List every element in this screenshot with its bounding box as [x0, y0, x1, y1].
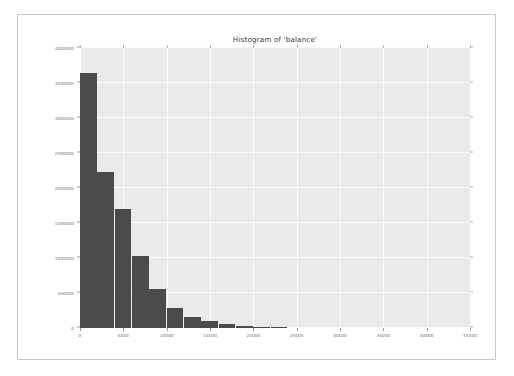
histogram-bar-1 [97, 172, 114, 328]
x-tick-mark-top-1 [123, 45, 124, 48]
y-tick-label-3: 1500000 [55, 221, 74, 226]
x-tick-label-0: 0 [79, 333, 82, 338]
y-tick-label-5: 2500000 [55, 151, 74, 156]
x-tick-label-6: 30000 [333, 333, 347, 338]
histogram-bars [80, 48, 470, 328]
x-tick-mark-3 [210, 328, 211, 331]
x-tick-label-4: 20000 [246, 333, 260, 338]
figure-frame: Histogram of 'balance' 05000001000000150… [17, 14, 496, 360]
x-tick-label-9: 45000 [463, 333, 477, 338]
y-tick-mark-right-2 [470, 257, 473, 258]
histogram-bar-2 [115, 209, 132, 328]
chart-title: Histogram of 'balance' [80, 35, 470, 44]
x-tick-mark-top-2 [167, 45, 168, 48]
x-tick-mark-top-9 [470, 45, 471, 48]
x-tick-mark-4 [253, 328, 254, 331]
x-tick-mark-top-8 [427, 45, 428, 48]
y-tick-label-7: 3500000 [55, 81, 74, 86]
y-tick-mark-right-4 [470, 187, 473, 188]
y-tick-label-8: 4000000 [55, 46, 74, 51]
x-tick-label-7: 35000 [376, 333, 390, 338]
y-tick-mark-right-3 [470, 222, 473, 223]
y-tick-label-0: 0 [71, 326, 74, 331]
x-tick-mark-7 [383, 328, 384, 331]
y-tick-label-1: 500000 [57, 291, 74, 296]
histogram-bar-5 [167, 308, 184, 328]
chart-axes-area: Histogram of 'balance' 05000001000000150… [80, 48, 470, 328]
histogram-bar-8 [219, 324, 236, 328]
x-tick-mark-top-4 [253, 45, 254, 48]
x-tick-mark-0 [80, 328, 81, 331]
x-tick-mark-9 [470, 328, 471, 331]
histogram-bar-3 [132, 256, 149, 328]
x-tick-mark-top-3 [210, 45, 211, 48]
y-tick-label-6: 3000000 [55, 116, 74, 121]
screenshot-root: Histogram of 'balance' 05000001000000150… [0, 0, 514, 376]
x-tick-mark-top-6 [340, 45, 341, 48]
x-tick-label-3: 15000 [203, 333, 217, 338]
x-tick-mark-top-5 [297, 45, 298, 48]
x-tick-label-2: 10000 [160, 333, 174, 338]
y-tick-mark-right-1 [470, 292, 473, 293]
histogram-bar-11 [271, 327, 288, 328]
gridline-vertical-9 [470, 48, 471, 328]
y-tick-label-4: 2000000 [55, 186, 74, 191]
histogram-bar-0 [80, 73, 97, 328]
y-tick-mark-right-6 [470, 117, 473, 118]
histogram-bar-6 [184, 317, 201, 328]
x-tick-mark-6 [340, 328, 341, 331]
histogram-bar-4 [149, 289, 166, 328]
x-tick-mark-8 [427, 328, 428, 331]
x-tick-mark-top-7 [383, 45, 384, 48]
x-tick-mark-1 [123, 328, 124, 331]
x-tick-mark-5 [297, 328, 298, 331]
x-tick-label-5: 25000 [290, 333, 304, 338]
histogram-bar-7 [201, 321, 218, 328]
y-tick-label-2: 1000000 [55, 256, 74, 261]
x-tick-mark-2 [167, 328, 168, 331]
y-tick-mark-right-7 [470, 82, 473, 83]
histogram-bar-9 [236, 326, 253, 328]
x-tick-mark-top-0 [80, 45, 81, 48]
x-tick-label-8: 40000 [420, 333, 434, 338]
x-tick-label-1: 5000 [118, 333, 129, 338]
y-tick-mark-right-5 [470, 152, 473, 153]
histogram-bar-10 [253, 327, 270, 328]
